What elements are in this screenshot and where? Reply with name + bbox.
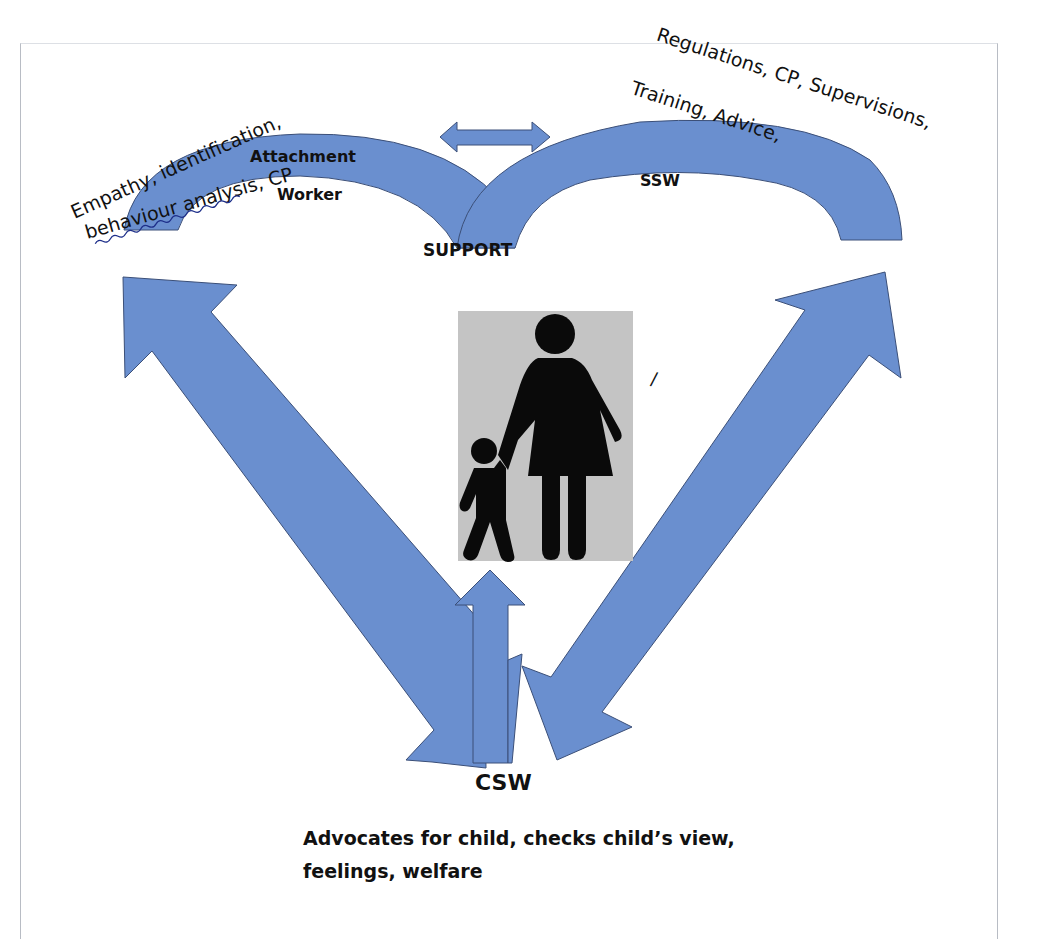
attachment-worker-label-line1: Attachment [250,147,356,166]
double-arrow-attachment-ssw [440,122,550,152]
attachment-worker-label-line2: Worker [277,185,342,204]
support-label: SUPPORT [423,240,512,260]
parent-and-child-icon [458,311,633,562]
ssw-label: SSW [640,171,680,190]
csw-description: Advocates for child, checks child’s view… [303,822,823,888]
double-arrow-attachment-csw [123,277,486,768]
csw-label: CSW [475,770,532,795]
diagram-canvas: Empathy, identification, behaviour analy… [0,0,1043,939]
